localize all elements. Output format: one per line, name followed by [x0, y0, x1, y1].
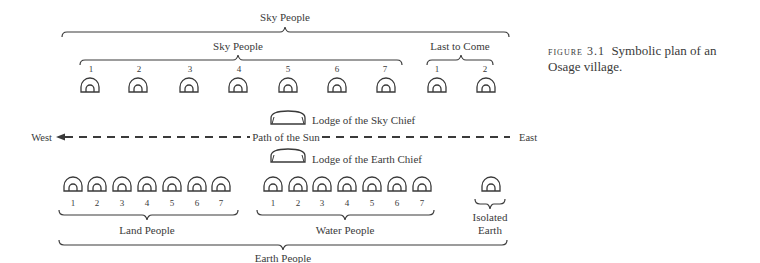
lodge-number: 5: [370, 198, 375, 208]
figure-caption: figure 3.1 Symbolic plan of an Osage vil…: [548, 43, 748, 75]
lodge-icon: [212, 177, 230, 191]
lodge-number: 1: [435, 64, 440, 74]
figure-number: figure 3.1: [548, 44, 605, 58]
lodge-number: 5: [170, 198, 175, 208]
lodge-number: 6: [395, 198, 400, 208]
lodge-icon: [88, 177, 106, 191]
lodge-icon: [313, 177, 331, 191]
lodge-number: 4: [145, 198, 150, 208]
lodge-number: 7: [219, 198, 224, 208]
sky-people-inner-label: Sky People: [213, 40, 263, 52]
lodge-number: 2: [296, 198, 301, 208]
lodge-number: 3: [320, 198, 325, 208]
isolated-earth-brace: [475, 199, 505, 209]
water-people-lodges: 1 2 3 4 5 6 7: [264, 177, 431, 208]
lodge-icon: [229, 78, 247, 92]
lodge-number: 7: [383, 64, 388, 74]
lodge-icon: [279, 78, 297, 92]
lodge-number: 2: [483, 64, 488, 74]
isolated-earth-lodge-icon: [482, 177, 500, 191]
lodge-number: 2: [95, 198, 100, 208]
lodge-icon: [289, 177, 307, 191]
west-label: West: [31, 132, 52, 143]
lodge-icon: [81, 78, 99, 92]
east-label: East: [519, 132, 537, 143]
lodge-number: 1: [89, 64, 94, 74]
earth-people-outer-brace: [59, 240, 507, 250]
lodge-icon: [363, 177, 381, 191]
lodge-icon: [264, 177, 282, 191]
osage-village-diagram: Sky People Sky People Last to Come 1 2 3…: [0, 0, 760, 263]
lodge-number: 7: [420, 198, 425, 208]
lodge-icon: [188, 177, 206, 191]
land-people-lodges: 1 2 3 4 5 6 7: [64, 177, 230, 208]
lodge-number: 3: [188, 64, 193, 74]
lodge-number: 4: [345, 198, 350, 208]
lodge-icon: [388, 177, 406, 191]
lodge-icon: [113, 177, 131, 191]
sky-people-outer-label: Sky People: [260, 11, 310, 23]
lodge-icon: [138, 177, 156, 191]
lodge-icon: [413, 177, 431, 191]
lodge-icon: [377, 78, 395, 92]
isolated-earth-label-line2: Earth: [478, 224, 502, 236]
lodge-icon: [180, 78, 198, 92]
isolated-earth-label-line1: Isolated: [473, 211, 508, 223]
lodge-number: 2: [137, 64, 142, 74]
last-to-come-label: Last to Come: [430, 40, 489, 52]
lodge-icon: [129, 78, 147, 92]
lodge-number: 6: [195, 198, 200, 208]
lodge-icon: [477, 78, 495, 92]
lodge-number: 3: [120, 198, 125, 208]
lodge-icon: [163, 177, 181, 191]
earth-chief-label: Lodge of the Earth Chief: [312, 153, 422, 165]
lodge-number: 1: [71, 198, 76, 208]
sky-people-lodges: 1 2 3 4 5 6 7: [81, 64, 395, 92]
lodge-number: 6: [335, 64, 340, 74]
sky-chief-label: Lodge of the Sky Chief: [312, 114, 416, 126]
path-of-the-sun-label: Path of the Sun: [252, 131, 320, 143]
water-people-label: Water People: [316, 224, 375, 236]
lodge-number: 1: [271, 198, 276, 208]
lodge-icon: [338, 177, 356, 191]
lodge-number: 4: [237, 64, 242, 74]
lodge-icon: [328, 78, 346, 92]
lodge-icon: [64, 177, 82, 191]
last-to-come-lodges: 1 2: [428, 64, 495, 92]
sky-people-outer-brace: [62, 27, 509, 37]
lodge-icon: [428, 78, 446, 92]
lodge-number: 5: [286, 64, 291, 74]
earth-people-label: Earth People: [255, 252, 312, 263]
land-people-brace: [59, 210, 238, 220]
land-people-label: Land People: [119, 224, 174, 236]
sky-chief-lodge-icon: [271, 111, 305, 124]
earth-chief-lodge-icon: [271, 149, 305, 162]
water-people-brace: [257, 210, 434, 220]
